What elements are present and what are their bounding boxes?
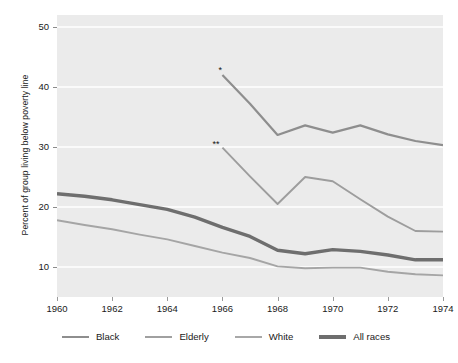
legend-swatch-icon (145, 336, 172, 338)
legend-swatch-icon (235, 336, 262, 338)
x-tick-label-1970: 1970 (313, 303, 353, 314)
x-tick-label-1964: 1964 (147, 303, 187, 314)
y-tick-label-20: 20 (19, 201, 49, 212)
y-tick-label-30: 30 (19, 141, 49, 152)
legend-item-elderly[interactable]: Elderly (145, 331, 208, 342)
x-tick-label-1972: 1972 (368, 303, 408, 314)
legend-item-white[interactable]: White (235, 331, 294, 342)
x-tick-mark-1974 (443, 297, 444, 301)
legend-label: All races (353, 331, 390, 342)
x-tick-mark-1962 (112, 297, 113, 301)
legend-item-black[interactable]: Black (62, 331, 119, 342)
x-tick-label-1974: 1974 (423, 303, 458, 314)
x-tick-mark-1964 (167, 297, 168, 301)
y-tick-label-10: 10 (19, 261, 49, 272)
series-line-black (222, 75, 443, 145)
x-tick-label-1968: 1968 (258, 303, 298, 314)
annotation-double-asterisk-elderly: ** (212, 140, 219, 149)
x-tick-mark-1972 (388, 297, 389, 301)
legend-swatch-icon (319, 335, 346, 339)
chart-legend: BlackElderlyWhiteAll races (0, 331, 452, 342)
x-tick-label-1962: 1962 (92, 303, 132, 314)
x-tick-label-1960: 1960 (37, 303, 77, 314)
series-line-elderly (222, 148, 443, 232)
legend-item-all-races[interactable]: All races (319, 331, 390, 342)
x-tick-label-1966: 1966 (202, 303, 242, 314)
legend-label: White (269, 331, 294, 342)
x-tick-mark-1970 (333, 297, 334, 301)
plot-svg (57, 15, 443, 297)
y-tick-label-40: 40 (19, 81, 49, 92)
x-tick-mark-1960 (57, 297, 58, 301)
annotation-single-asterisk-black: * (218, 66, 222, 75)
y-tick-label-50: 50 (19, 21, 49, 32)
x-tick-mark-1966 (222, 297, 223, 301)
plot-area: *** (57, 15, 443, 297)
series-line-all-races (57, 194, 443, 260)
legend-label: Elderly (179, 331, 208, 342)
x-tick-mark-1968 (278, 297, 279, 301)
legend-swatch-icon (62, 336, 89, 338)
y-axis-title: Percent of group living below poverty li… (20, 25, 30, 285)
legend-label: Black (96, 331, 119, 342)
